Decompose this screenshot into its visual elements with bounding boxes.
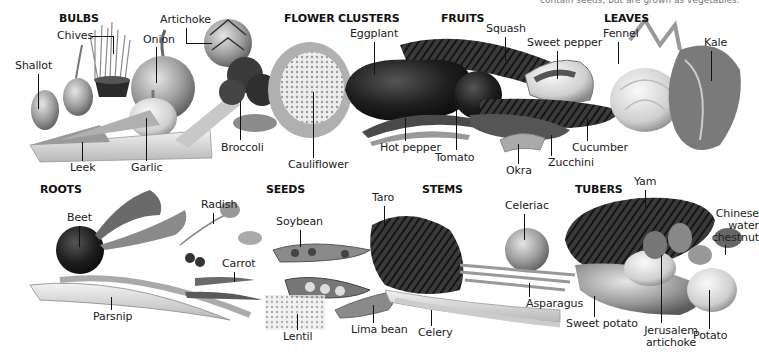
label-radish: Radish: [201, 199, 237, 211]
okra-art: [500, 133, 545, 152]
leader-chinese-water-chestnut: [725, 245, 726, 255]
leader-carrot: [234, 272, 235, 282]
leader-cauliflower: [313, 92, 314, 158]
label-beet: Beet: [67, 212, 92, 224]
label-onion: Onion: [143, 34, 175, 46]
leader-yam: [645, 190, 646, 208]
label-broccoli: Broccoli: [221, 142, 264, 154]
leader-eggplant: [374, 42, 375, 75]
leader-sweet-potato: [594, 296, 595, 317]
label-garlic: Garlic: [131, 162, 162, 174]
leader-fennel: [618, 42, 619, 64]
leader-potato: [709, 290, 710, 329]
leader-lentil: [297, 314, 298, 330]
label-taro: Taro: [372, 192, 394, 204]
label-hot-pepper: Hot pepper: [380, 142, 441, 154]
carrot-art: [185, 277, 262, 300]
label-cauliflower: Cauliflower: [288, 159, 348, 171]
label-squash: Squash: [486, 23, 526, 35]
leader-kale: [711, 51, 712, 81]
label-kale: Kale: [704, 37, 727, 49]
leader-sweet-pepper: [557, 51, 558, 79]
celeriac-art: [505, 228, 549, 272]
leader-jerusalem-artichoke: [661, 255, 662, 323]
label-tomato: Tomato: [435, 152, 474, 164]
leader-squash: [505, 37, 506, 61]
leader-parsnip: [111, 297, 112, 310]
label-sweet-pepper: Sweet pepper: [527, 37, 602, 49]
leader-beet: [79, 226, 80, 247]
label-chinese-water-chestnut: Chinese water chestnut: [709, 208, 759, 244]
taro-art: [370, 216, 463, 294]
label-zucchini: Zucchini: [548, 157, 594, 169]
heading-leaves: LEAVES: [604, 13, 649, 25]
heading-flower-clusters: FLOWER CLUSTERS: [284, 13, 399, 25]
leader-garlic: [146, 118, 147, 161]
leader-chives-v: [113, 36, 114, 54]
leader-leek: [82, 142, 83, 161]
label-celeriac: Celeriac: [505, 200, 549, 212]
leader-shallot: [38, 74, 39, 109]
heading-bulbs: BULBS: [59, 13, 99, 25]
caption-fragment: contain seeds, but are grown as vegetabl…: [540, 0, 740, 5]
label-cucumber: Cucumber: [572, 142, 628, 154]
label-lentil: Lentil: [283, 331, 313, 343]
label-yam: Yam: [634, 176, 656, 188]
heading-stems: STEMS: [422, 184, 463, 196]
label-celery: Celery: [418, 327, 453, 339]
label-leek: Leek: [70, 162, 95, 174]
parsnip-art: [30, 278, 250, 320]
leader-okra: [518, 144, 519, 164]
asparagus-art: [460, 265, 575, 290]
label-lima-bean: Lima bean: [351, 324, 408, 336]
leader-radish: [213, 213, 214, 224]
leader-lima-bean: [373, 305, 374, 323]
leader-chives: [91, 36, 113, 37]
leader-celeriac: [524, 214, 525, 240]
lentil-art: [265, 295, 325, 330]
leader-celery: [431, 310, 432, 326]
label-sweet-potato: Sweet potato: [566, 318, 638, 330]
leader-asparagus: [529, 283, 530, 297]
leader-artichoke-h: [186, 43, 212, 44]
leader-artichoke: [186, 28, 187, 43]
label-potato: Potato: [693, 330, 727, 342]
leader-broccoli: [240, 101, 241, 140]
label-artichoke: Artichoke: [160, 14, 211, 26]
leader-tomato: [456, 100, 457, 150]
label-carrot: Carrot: [222, 258, 255, 270]
label-chives: Chives: [57, 30, 93, 42]
beet-art: [56, 190, 186, 274]
eggplant-art: [345, 59, 471, 120]
label-fennel: Fennel: [603, 28, 639, 40]
cauliflower-art: [268, 42, 352, 138]
leader-hot-pepper: [405, 118, 406, 141]
heading-roots: ROOTS: [40, 184, 82, 196]
lima-bean-pod-art: [285, 278, 370, 298]
kale-art: [669, 46, 741, 151]
label-eggplant: Eggplant: [350, 28, 398, 40]
leader-taro: [384, 206, 385, 226]
label-soybean: Soybean: [276, 216, 323, 228]
label-asparagus: Asparagus: [526, 298, 583, 310]
label-okra: Okra: [506, 165, 532, 177]
heading-fruits: FRUITS: [441, 13, 484, 25]
leader-zucchini: [551, 135, 552, 156]
shallot-art: [31, 45, 93, 130]
leader-soybean: [300, 230, 301, 247]
leader-onion: [156, 47, 157, 83]
heading-seeds: SEEDS: [266, 184, 305, 196]
label-parsnip: Parsnip: [93, 311, 132, 323]
chives-art: [90, 22, 130, 97]
heading-tubers: TUBERS: [575, 184, 623, 196]
label-shallot: Shallot: [15, 60, 52, 72]
leader-cucumber: [587, 118, 588, 141]
soybean-art: [273, 244, 370, 262]
